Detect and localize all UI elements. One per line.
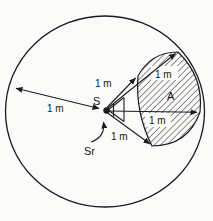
label-side-right: 1 m <box>149 115 166 126</box>
label-area-A: A <box>167 90 175 102</box>
label-side-top: 1 m <box>155 69 172 80</box>
label-steradian-Sr: Sr <box>84 145 95 157</box>
label-source-S: S <box>93 95 100 107</box>
diagram-canvas: 1 m 1 m 1 m 1 m 1 m S A Sr <box>0 0 213 221</box>
sr-leader-arrow <box>91 122 104 142</box>
source-point-dot <box>103 107 109 113</box>
label-radius-left: 1 m <box>47 103 64 114</box>
steradian-diagram: 1 m 1 m 1 m 1 m 1 m S A Sr <box>0 0 213 221</box>
radius-arrow-left-outward <box>16 88 57 98</box>
label-radius-upper: 1 m <box>95 78 112 89</box>
label-radius-lower: 1 m <box>111 131 128 142</box>
